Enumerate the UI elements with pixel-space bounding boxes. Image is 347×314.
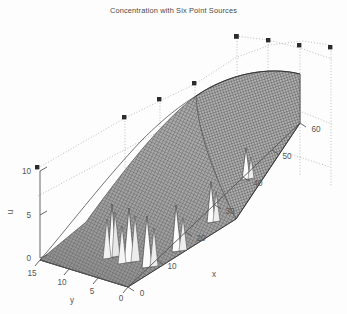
- x-tick-label: 40: [253, 179, 263, 188]
- grid-marker: [192, 81, 196, 85]
- grid-marker: [35, 165, 39, 169]
- y-tick-10: [64, 269, 69, 275]
- x-tick-0: [128, 287, 134, 291]
- figure-canvas: Concentration with Six Point Sources: [0, 0, 347, 314]
- z-axis-label: u: [6, 209, 15, 214]
- x-tick-label: 0: [140, 289, 145, 298]
- x-tick-label: 20: [196, 234, 206, 243]
- z-axis: [40, 167, 47, 258]
- z-tick-label: 5: [26, 211, 31, 220]
- grid-marker: [328, 45, 332, 49]
- grid-marker: [234, 34, 239, 39]
- z-tick-10: [40, 167, 47, 171]
- z-tick-label: 10: [22, 167, 32, 176]
- x-tick-label: 60: [311, 125, 321, 134]
- axes-3d: 10 5 0 u 15 10 5 0 y: [0, 0, 347, 314]
- y-tick-label: 10: [57, 278, 67, 287]
- grid-marker: [122, 115, 126, 119]
- z-tick-label: 0: [26, 254, 31, 263]
- y-tick-5: [93, 278, 98, 284]
- y-tick-0: [123, 287, 128, 293]
- y-tick-15: [35, 260, 40, 266]
- x-tick-label: 50: [282, 152, 292, 161]
- y-tick-label: 15: [27, 269, 37, 278]
- x-tick-label: 30: [225, 207, 235, 216]
- y-tick-label: 5: [90, 287, 95, 296]
- grid-marker: [297, 43, 301, 47]
- y-axis-label: y: [70, 296, 75, 305]
- x-tick-label: 10: [167, 262, 177, 271]
- x-tick-60: [300, 123, 306, 127]
- grid-marker: [157, 97, 161, 101]
- z-tick-5: [40, 211, 47, 215]
- z-tick-labels: 10 5 0: [22, 167, 32, 263]
- x-axis-label: x: [212, 270, 216, 279]
- grid-marker: [266, 38, 270, 42]
- y-tick-label: 0: [119, 294, 124, 303]
